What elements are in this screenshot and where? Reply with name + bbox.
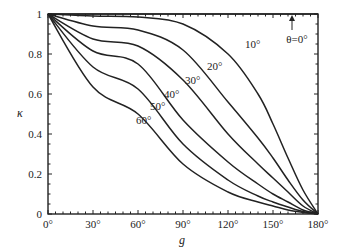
curve-theta-10 <box>48 14 318 214</box>
curve-theta-30 <box>48 14 318 214</box>
x-tick-60: 60° <box>130 218 145 230</box>
arrow-up-icon <box>289 15 295 21</box>
curve-theta-20 <box>48 14 318 214</box>
y-tick-0.2: 0.2 <box>28 168 42 180</box>
y-tick-0.8: 0.8 <box>28 48 42 60</box>
curve-label-10: 10° <box>245 38 260 50</box>
curve-theta-50 <box>48 14 318 214</box>
y-tick-0: 0 <box>37 208 43 220</box>
plot-frame <box>48 14 318 214</box>
x-tick-180: 180° <box>308 218 329 230</box>
curve-label-30: 30° <box>185 74 200 86</box>
curve-label-60: 60° <box>136 114 151 126</box>
kappa-vs-g-chart: 1 0.8 0.6 0.4 0.2 0 0° 30° 60° 90° 120° … <box>0 0 344 252</box>
y-tick-0.6: 0.6 <box>28 88 42 100</box>
x-tick-120: 120° <box>218 218 239 230</box>
x-tick-150: 150° <box>263 218 284 230</box>
curves <box>48 14 318 214</box>
x-tick-0: 0° <box>43 218 53 230</box>
x-axis-label: g <box>179 233 185 247</box>
y-axis-label: κ <box>17 106 23 120</box>
axis-ticks <box>48 14 318 214</box>
curve-label-20: 20° <box>207 60 222 72</box>
curve-theta-60 <box>48 14 318 214</box>
y-tick-1: 1 <box>37 8 43 20</box>
x-tick-90: 90° <box>175 218 190 230</box>
curve-label-40: 40° <box>164 88 179 100</box>
y-tick-0.4: 0.4 <box>28 128 42 140</box>
curve-label-50: 50° <box>150 100 165 112</box>
x-tick-30: 30° <box>85 218 100 230</box>
theta0-label: θ=0° <box>286 33 307 45</box>
curve-theta-40 <box>48 14 318 214</box>
